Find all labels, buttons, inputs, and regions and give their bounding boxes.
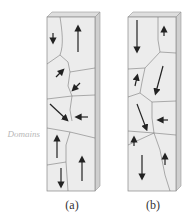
caption-b: (b) xyxy=(138,198,168,213)
bar-b xyxy=(128,12,181,191)
caption-a: (a) xyxy=(57,198,87,213)
magnetic-domains-figure xyxy=(0,0,186,217)
bar-a xyxy=(47,12,100,191)
domains-label: Domains xyxy=(0,129,40,139)
